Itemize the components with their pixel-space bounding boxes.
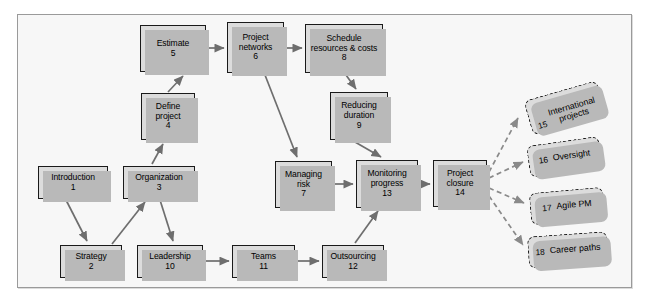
- node-15-content: 15International projects: [525, 81, 606, 134]
- node-9-number: 9: [357, 121, 362, 131]
- node-18-label: Career paths: [549, 243, 600, 256]
- diagram-stage: Introduction1Strategy2Organization3Defin…: [0, 0, 652, 306]
- node-10-number: 10: [165, 262, 174, 272]
- node-8-number: 8: [342, 53, 347, 63]
- node-14-number: 14: [455, 188, 464, 198]
- node-11-number: 11: [259, 262, 268, 272]
- node-17[interactable]: 17Agile PM: [529, 187, 606, 225]
- node-1[interactable]: Introduction1: [38, 166, 108, 199]
- node-2-number: 2: [89, 262, 94, 272]
- node-17-number: 17: [542, 202, 552, 213]
- node-13[interactable]: Monitoring progress13: [356, 160, 418, 208]
- node-15[interactable]: 15International projects: [524, 80, 607, 136]
- node-5-number: 5: [171, 49, 176, 59]
- node-7-number: 7: [301, 189, 306, 199]
- node-16[interactable]: 16Oversight: [526, 136, 603, 178]
- node-10-label: Leadership: [149, 252, 191, 262]
- node-18[interactable]: 18Career paths: [527, 231, 609, 269]
- node-6-number: 6: [253, 52, 258, 62]
- node-15-number: 15: [537, 119, 549, 131]
- node-4-label: Define project: [155, 102, 180, 122]
- node-1-label: Introduction: [51, 173, 95, 183]
- node-3[interactable]: Organization3: [123, 166, 195, 199]
- node-11[interactable]: Teams11: [232, 245, 295, 278]
- node-7-label: Managing risk: [285, 170, 322, 190]
- node-18-number: 18: [535, 247, 545, 258]
- node-14-label: Project closure: [446, 169, 473, 189]
- node-14[interactable]: Project closure14: [433, 160, 487, 207]
- node-15-label: International projects: [547, 95, 599, 127]
- node-6-label: Project networks: [239, 33, 273, 53]
- node-3-number: 3: [157, 183, 162, 193]
- node-16-label: Oversight: [552, 149, 591, 164]
- node-12-number: 12: [348, 262, 357, 272]
- node-12[interactable]: Outsourcing12: [322, 245, 384, 278]
- node-4[interactable]: Define project4: [141, 93, 195, 140]
- node-12-label: Outsourcing: [330, 252, 375, 262]
- node-7[interactable]: Managing risk7: [275, 161, 332, 208]
- node-16-content: 16Oversight: [527, 137, 601, 177]
- node-5-label: Estimate: [157, 39, 190, 49]
- node-9[interactable]: Reducing duration9: [330, 92, 388, 140]
- node-1-number: 1: [71, 183, 76, 193]
- node-4-number: 4: [166, 121, 171, 131]
- node-13-number: 13: [382, 189, 391, 199]
- node-9-label: Reducing duration: [341, 101, 377, 121]
- node-17-label: Agile PM: [556, 199, 592, 212]
- node-3-label: Organization: [135, 173, 183, 183]
- node-13-label: Monitoring progress: [367, 169, 406, 189]
- node-18-content: 18Career paths: [528, 232, 608, 267]
- node-8[interactable]: Schedule resources & costs8: [305, 24, 383, 73]
- node-11-label: Teams: [251, 252, 276, 262]
- node-layer: Introduction1Strategy2Organization3Defin…: [0, 0, 652, 306]
- node-2[interactable]: Strategy2: [60, 245, 122, 278]
- node-10[interactable]: Leadership10: [137, 245, 203, 278]
- node-6[interactable]: Project networks6: [227, 22, 284, 73]
- node-17-content: 17Agile PM: [530, 188, 604, 224]
- node-16-number: 16: [538, 154, 549, 165]
- node-8-label: Schedule resources & costs: [311, 34, 378, 54]
- node-5[interactable]: Estimate5: [140, 25, 206, 72]
- node-2-label: Strategy: [75, 252, 106, 262]
